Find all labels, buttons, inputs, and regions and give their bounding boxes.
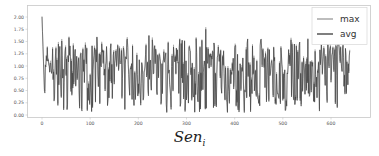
x-tick-label: 0: [41, 121, 44, 126]
caption-subscript: i: [202, 138, 205, 148]
y-tick-label: 0.75: [14, 76, 24, 81]
y-tick-label: 2.00: [14, 15, 24, 20]
x-axis: 0100200300400500600: [41, 118, 336, 127]
y-tick-label: 1.25: [14, 51, 24, 56]
y-axis: 0.000.250.500.751.001.251.501.752.00: [14, 15, 28, 118]
chart-caption: Seni: [0, 128, 379, 148]
x-tick-label: 400: [230, 121, 239, 126]
x-tick-label: 200: [134, 121, 143, 126]
x-tick-label: 300: [182, 121, 191, 126]
legend-max-label: max: [340, 14, 360, 24]
line-chart: 0.000.250.500.751.001.251.501.752.00 010…: [0, 0, 379, 128]
x-tick-label: 100: [86, 121, 95, 126]
caption-main: Sen: [174, 128, 203, 146]
y-tick-label: 0.00: [14, 113, 24, 118]
legend: max avg: [312, 8, 367, 45]
y-tick-label: 1.00: [14, 64, 24, 69]
legend-avg-label: avg: [340, 29, 357, 39]
y-tick-label: 0.25: [14, 100, 24, 105]
x-tick-label: 600: [327, 121, 336, 126]
x-tick-label: 500: [278, 121, 287, 126]
y-tick-label: 0.50: [14, 88, 24, 93]
y-tick-label: 1.75: [14, 27, 24, 32]
y-tick-label: 1.50: [14, 39, 24, 44]
